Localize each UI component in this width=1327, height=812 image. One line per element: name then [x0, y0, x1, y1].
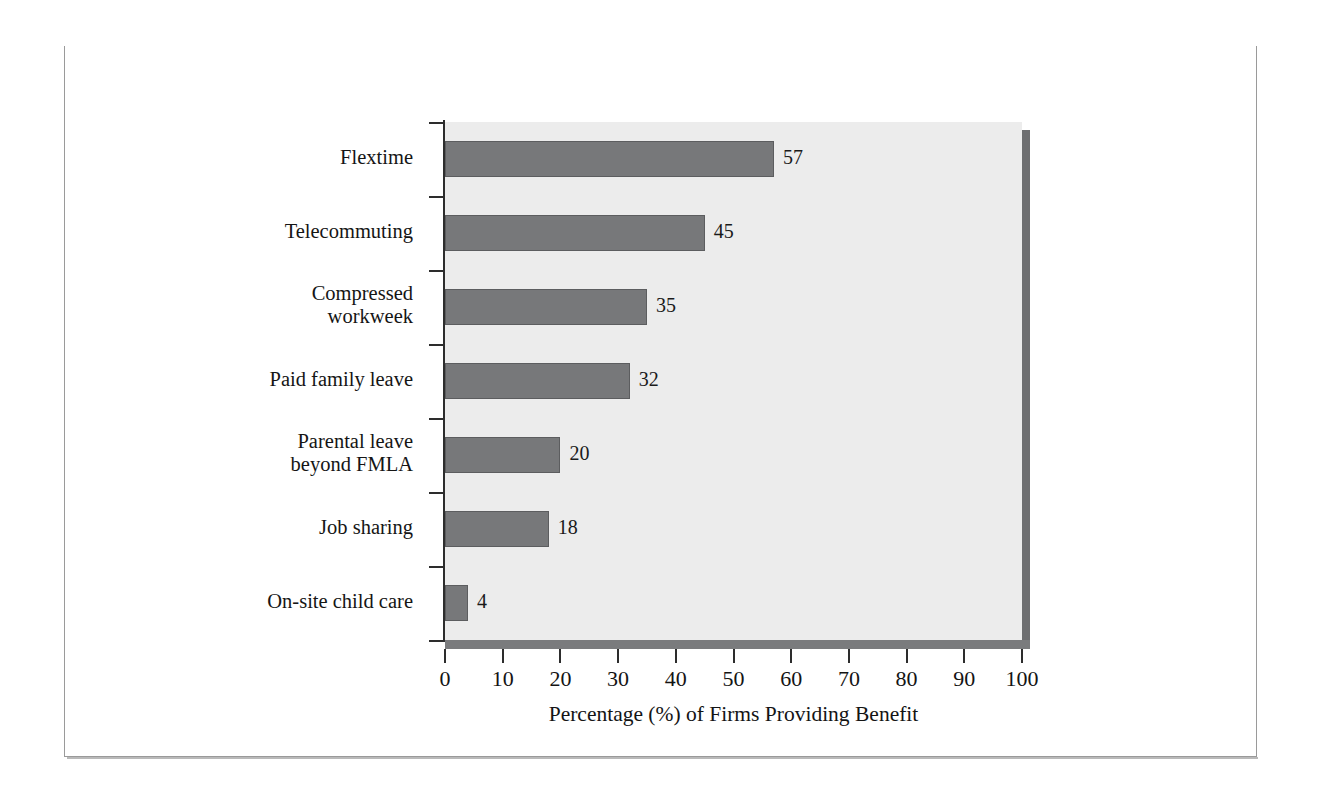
bars-layer: 5745353220184 — [445, 122, 1022, 640]
y-axis-tick — [429, 196, 444, 198]
x-axis-tick-label: 40 — [665, 666, 687, 692]
bar — [445, 437, 560, 473]
x-axis-tick-label: 70 — [838, 666, 860, 692]
bar — [445, 141, 774, 177]
bar-value-label: 57 — [783, 146, 803, 169]
x-axis-tick-label: 80 — [896, 666, 918, 692]
category-label: Telecommuting — [33, 220, 413, 243]
category-label: On-site child care — [33, 590, 413, 613]
x-axis-tick — [790, 649, 792, 663]
bar-value-label: 32 — [639, 368, 659, 391]
y-axis-end-tick — [429, 122, 444, 124]
y-axis-tick — [429, 566, 444, 568]
category-label: Paid family leave — [33, 368, 413, 391]
x-axis-tick — [617, 649, 619, 663]
y-axis-tick — [429, 418, 444, 420]
x-axis-tick-label: 50 — [723, 666, 745, 692]
bar — [445, 289, 647, 325]
bar — [445, 585, 468, 621]
x-axis-tick — [675, 649, 677, 663]
y-axis-end-tick — [429, 640, 444, 642]
x-axis-tick — [1021, 649, 1023, 663]
x-axis-tick — [733, 649, 735, 663]
x-axis-tick-label: 0 — [440, 666, 451, 692]
x-axis-tick — [906, 649, 908, 663]
category-label: Parental leave beyond FMLA — [33, 430, 413, 476]
x-axis-tick — [848, 649, 850, 663]
bar-value-label: 4 — [477, 590, 487, 613]
y-axis-tick — [429, 270, 444, 272]
x-axis-tick-label: 60 — [780, 666, 802, 692]
category-axis-labels: FlextimeTelecommutingCompressed workweek… — [0, 122, 425, 640]
x-axis-tick-label: 30 — [607, 666, 629, 692]
x-axis-tick-label: 90 — [953, 666, 975, 692]
category-label: Compressed workweek — [33, 282, 413, 328]
category-label: Job sharing — [33, 516, 413, 539]
x-axis-tick-label: 20 — [549, 666, 571, 692]
x-axis-tick — [444, 649, 446, 663]
bar — [445, 363, 630, 399]
bar-value-label: 45 — [714, 220, 734, 243]
bar-value-label: 18 — [558, 516, 578, 539]
x-axis-title: Percentage (%) of Firms Providing Benefi… — [445, 702, 1022, 727]
x-axis-tick — [502, 649, 504, 663]
category-label: Flextime — [33, 146, 413, 169]
bar-value-label: 35 — [656, 294, 676, 317]
x-axis-tick — [559, 649, 561, 663]
x-axis-tick — [963, 649, 965, 663]
y-axis-tick — [429, 344, 444, 346]
x-axis-line — [445, 640, 1030, 649]
bar — [445, 215, 705, 251]
x-axis-tick-label: 10 — [492, 666, 514, 692]
bar — [445, 511, 549, 547]
y-axis-tick — [429, 492, 444, 494]
x-axis-tick-label: 100 — [1006, 666, 1039, 692]
bar-value-label: 20 — [569, 442, 589, 465]
